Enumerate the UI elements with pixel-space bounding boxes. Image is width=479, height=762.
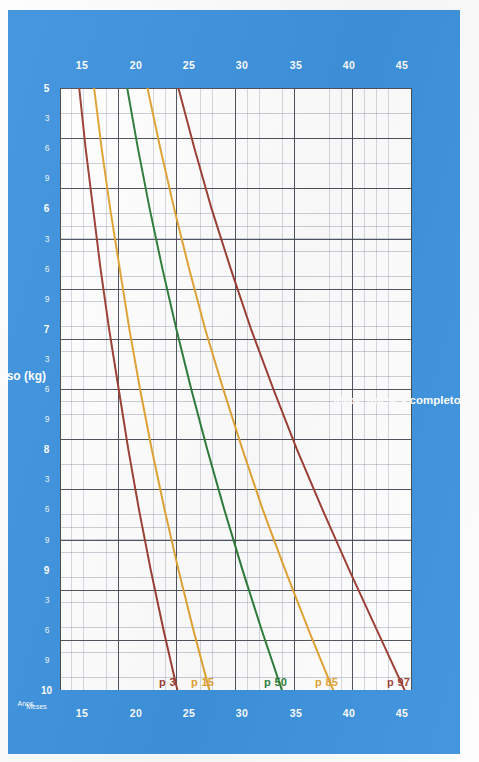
percentile-curve-p50 bbox=[127, 88, 282, 690]
weight-tick-15: 15 bbox=[69, 59, 95, 71]
percentile-curve-p3 bbox=[79, 88, 177, 690]
percentile-curve-p97 bbox=[178, 88, 404, 690]
age-tick-month-6: 6 bbox=[37, 504, 57, 514]
age-tick-month-3: 3 bbox=[37, 354, 57, 364]
age-tick-year-8: 8 bbox=[37, 444, 57, 455]
percentile-curves bbox=[60, 88, 412, 690]
percentile-label-p97: p 97 bbox=[387, 676, 410, 688]
weight-tick-45: 45 bbox=[389, 707, 415, 719]
age-tick-month-9: 9 bbox=[37, 414, 57, 424]
age-tick-month-6: 6 bbox=[37, 625, 57, 635]
plot-area bbox=[60, 88, 412, 690]
weight-tick-30: 30 bbox=[229, 59, 255, 71]
weight-tick-35: 35 bbox=[283, 707, 309, 719]
age-tick-month-3: 3 bbox=[37, 595, 57, 605]
age-tick-month-9: 9 bbox=[37, 655, 57, 665]
age-axis-title: Idade (meses completos e anos) bbox=[333, 394, 479, 406]
percentile-label-p85: p 85 bbox=[315, 676, 338, 688]
percentile-curve-p85 bbox=[147, 88, 333, 690]
age-tick-year-7: 7 bbox=[37, 323, 57, 334]
age-tick-month-3: 3 bbox=[37, 474, 57, 484]
age-tick-month-9: 9 bbox=[37, 535, 57, 545]
age-tick-month-9: 9 bbox=[37, 294, 57, 304]
age-tick-month-3: 3 bbox=[37, 113, 57, 123]
curves-svg bbox=[60, 88, 412, 690]
age-tick-year-6: 6 bbox=[37, 203, 57, 214]
weight-axis-title: Peso (kg) bbox=[0, 369, 46, 383]
age-tick-month-3: 3 bbox=[37, 234, 57, 244]
weight-tick-30: 30 bbox=[229, 707, 255, 719]
weight-tick-15: 15 bbox=[69, 707, 95, 719]
chart-blue-panel: p 97p 85p 50p 15p 3 15202530354045 15202… bbox=[8, 10, 460, 754]
weight-tick-20: 20 bbox=[123, 59, 149, 71]
age-tick-year-9: 9 bbox=[37, 564, 57, 575]
percentile-label-p50: p 50 bbox=[264, 676, 287, 688]
age-tick-month-9: 9 bbox=[37, 173, 57, 183]
percentile-label-p15: p 15 bbox=[191, 676, 214, 688]
weight-tick-35: 35 bbox=[283, 59, 309, 71]
weight-tick-40: 40 bbox=[336, 707, 362, 719]
rotated-chart: p 97p 85p 50p 15p 3 15202530354045 15202… bbox=[32, 32, 436, 732]
age-tick-month-6: 6 bbox=[37, 143, 57, 153]
weight-tick-25: 25 bbox=[176, 707, 202, 719]
years-unit-label: Anos bbox=[18, 700, 34, 707]
weight-tick-45: 45 bbox=[389, 59, 415, 71]
percentile-label-p3: p 3 bbox=[159, 676, 176, 688]
age-tick-year-5: 5 bbox=[37, 83, 57, 94]
age-tick-year-10: 10 bbox=[37, 685, 57, 696]
weight-tick-25: 25 bbox=[176, 59, 202, 71]
weight-tick-40: 40 bbox=[336, 59, 362, 71]
weight-tick-20: 20 bbox=[123, 707, 149, 719]
page-background: p 97p 85p 50p 15p 3 15202530354045 15202… bbox=[0, 0, 479, 762]
age-tick-month-6: 6 bbox=[37, 384, 57, 394]
age-tick-month-6: 6 bbox=[37, 264, 57, 274]
